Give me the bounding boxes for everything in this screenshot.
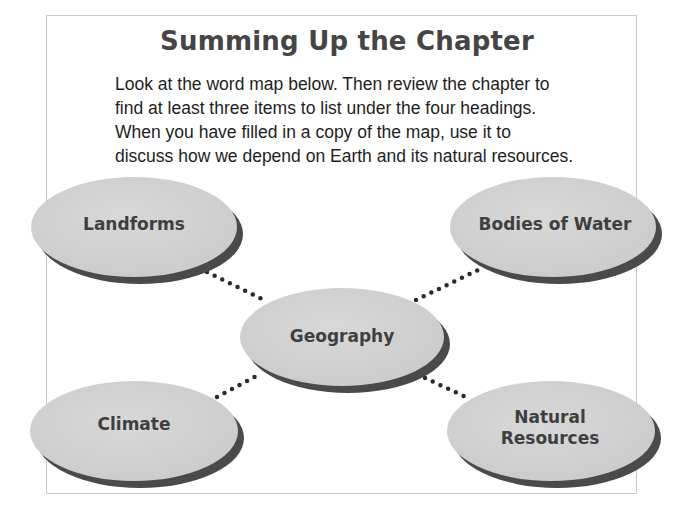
connector-landforms <box>207 272 268 302</box>
connector-natural-resources <box>425 378 468 398</box>
node-geography-label: Geography <box>252 326 432 347</box>
node-climate-label: Climate <box>44 414 224 435</box>
node-natural-resources-label: Natural Resources <box>460 407 640 449</box>
connector-climate <box>217 373 262 397</box>
node-natural-resources-line1: Natural <box>460 407 640 428</box>
node-natural-resources-line2: Resources <box>460 428 640 449</box>
node-landforms-label: Landforms <box>44 214 224 235</box>
connector-bodies-of-water <box>416 270 478 300</box>
node-bodies-of-water-label: Bodies of Water <box>460 214 650 235</box>
